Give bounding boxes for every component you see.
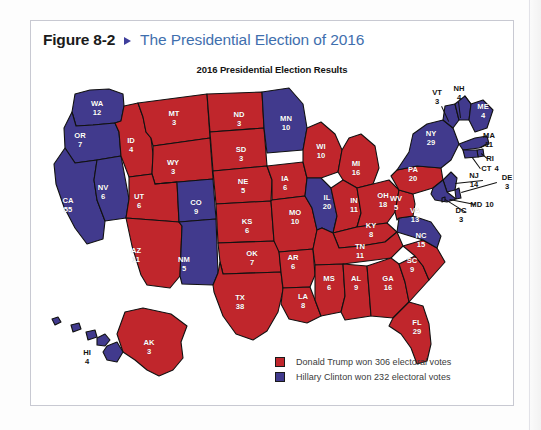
map-title: 2016 Presidential Election Results — [31, 64, 513, 75]
figure-page: Figure 8-2 The Presidential Election of … — [0, 0, 541, 430]
state-shape-az[interactable] — [126, 218, 182, 288]
state-shape-ok[interactable] — [218, 241, 281, 274]
state-shape-sd[interactable] — [210, 128, 267, 171]
state-shape-wy[interactable] — [152, 138, 213, 184]
state-shape-ne[interactable] — [213, 166, 272, 204]
state-shape-mn[interactable] — [262, 88, 307, 153]
state-shape-ms[interactable] — [315, 264, 345, 316]
state-shape-oh[interactable] — [357, 180, 399, 227]
state-shape-de[interactable] — [455, 188, 461, 199]
state-shape-ks[interactable] — [216, 201, 274, 243]
state-shape-nd[interactable] — [207, 92, 264, 132]
state-shape-hi[interactable] — [71, 323, 81, 332]
legend-label-trump: Donald Trump won 306 electoral votes — [296, 357, 451, 367]
map-legend: Donald Trump won 306 electoral votes Hil… — [275, 357, 451, 382]
state-shape-ak[interactable] — [117, 308, 187, 376]
state-shape-wi[interactable] — [303, 122, 342, 178]
state-shape-hi[interactable] — [97, 334, 110, 346]
state-shape-me[interactable] — [465, 96, 493, 132]
page-edge-line — [529, 0, 530, 430]
legend-label-clinton: Hillary Clinton won 232 electoral votes — [296, 372, 451, 382]
legend-item-trump: Donald Trump won 306 electoral votes — [275, 357, 451, 367]
figure-number: Figure 8-2 — [43, 31, 115, 49]
state-shape-nm[interactable] — [179, 219, 218, 285]
legend-swatch-blue-icon — [275, 372, 285, 382]
electoral-map: WA12OR7CA55NV6ID4MT3WY3UT6AZ11CO9NM5ND3S… — [31, 76, 513, 406]
state-shape-hi[interactable] — [52, 317, 61, 325]
triangle-right-icon — [124, 37, 131, 45]
figure-panel: Figure 8-2 The Presidential Election of … — [30, 20, 514, 406]
state-shape-ar[interactable] — [279, 249, 315, 288]
state-shape-al[interactable] — [341, 264, 371, 320]
legend-item-clinton: Hillary Clinton won 232 electoral votes — [275, 372, 451, 382]
state-shape-ct[interactable] — [463, 150, 478, 158]
state-shape-dc[interactable] — [442, 197, 445, 202]
state-shape-ma[interactable] — [459, 136, 489, 150]
state-shape-ny[interactable] — [397, 120, 459, 170]
figure-title: The Presidential Election of 2016 — [140, 31, 364, 49]
state-shape-wa[interactable] — [72, 89, 124, 126]
state-shape-mi[interactable] — [338, 134, 379, 188]
state-shape-wv[interactable] — [395, 190, 415, 220]
legend-swatch-red-icon — [275, 357, 285, 367]
state-shape-tx[interactable] — [213, 262, 283, 340]
state-shape-hi[interactable] — [86, 330, 97, 340]
state-shape-ia[interactable] — [267, 162, 307, 200]
figure-header: Figure 8-2 The Presidential Election of … — [43, 31, 364, 49]
